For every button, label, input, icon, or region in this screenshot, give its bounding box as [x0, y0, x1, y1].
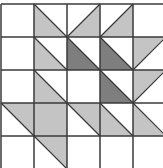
triangle-light-r3c1	[34, 103, 67, 136]
triangle-cells	[1, 4, 163, 168]
quilt-grid-diagram	[0, 0, 163, 168]
